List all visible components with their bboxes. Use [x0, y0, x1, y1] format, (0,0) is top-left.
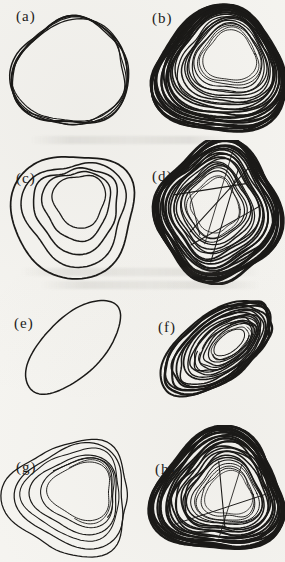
panel-g: (g): [0, 425, 142, 562]
panel-label-a: (a): [16, 8, 36, 25]
attractor-plot-h: [142, 425, 285, 562]
panel-f: (f): [142, 285, 285, 425]
figure-sheet: (a) (b) (c) (d) (e) (f) (g) (h): [0, 0, 285, 562]
attractor-plot-g: [0, 425, 142, 562]
panel-label-g: (g): [16, 459, 37, 476]
attractor-plot-f: [142, 285, 285, 425]
panel-c: (c): [0, 140, 142, 285]
scan-bleed-artifact: [20, 268, 260, 276]
scan-bleed-artifact: [30, 136, 230, 144]
panel-a: (a): [0, 0, 142, 140]
panel-e: (e): [0, 285, 142, 425]
panel-label-h: (h): [155, 461, 176, 478]
panel-h: (h): [142, 425, 285, 562]
attractor-plot-e: [0, 285, 142, 425]
panel-label-f: (f): [158, 319, 176, 336]
attractor-plot-d: [142, 140, 285, 285]
panel-label-b: (b): [152, 10, 173, 27]
panel-label-e: (e): [14, 315, 34, 332]
panel-label-c: (c): [16, 170, 36, 187]
panel-b: (b): [142, 0, 285, 140]
panel-label-d: (d): [152, 168, 173, 185]
panel-d: (d): [142, 140, 285, 285]
attractor-plot-c: [0, 140, 142, 285]
scan-bleed-artifact: [40, 281, 260, 289]
